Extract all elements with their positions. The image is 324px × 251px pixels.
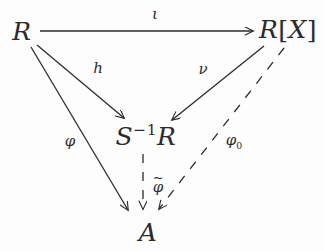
edge-label-nu-text: ν [198, 60, 207, 78]
localization-ring-R: R [157, 122, 176, 151]
edge-label-h: h [93, 61, 103, 76]
edge-label-h-text: h [93, 59, 103, 77]
node-R-poly-base: R [259, 15, 278, 44]
edge-label-phi-zero-subscript: 0 [236, 140, 242, 151]
edge-label-phi-tilde: ~φ [153, 180, 164, 195]
node-variable-X: X [289, 15, 307, 44]
localization-S: S [116, 122, 134, 151]
phi-tilde-group: ~φ [153, 180, 164, 195]
arrow-phi [31, 47, 128, 210]
node-A: A [139, 220, 158, 245]
bracket-close: ] [307, 15, 317, 44]
edge-label-iota-text: ι [152, 5, 158, 23]
edge-label-phi-text: φ [65, 132, 76, 150]
arrow-nu [172, 46, 264, 120]
edge-label-phi-zero: φ0 [226, 133, 242, 150]
node-R-label: R [12, 17, 31, 46]
node-R: R [12, 19, 31, 44]
arrow-h [37, 45, 124, 118]
node-S-inverse-R: S−1R [116, 123, 177, 148]
edge-label-nu: ν [198, 62, 207, 77]
tilde-accent: ~ [153, 172, 164, 185]
bracket-open: [ [278, 15, 288, 44]
commutative-diagram: R[X] : iota (solid horizontal) --> S^-1 … [0, 0, 324, 251]
localization-exponent: −1 [133, 121, 157, 139]
arrow-phi-zero [159, 48, 284, 209]
node-R-poly-X: R[X] [259, 17, 317, 42]
edge-label-phi: φ [65, 134, 76, 149]
node-A-label: A [139, 218, 158, 247]
edge-label-phi-zero-base: φ [226, 131, 237, 149]
edge-label-iota: ι [152, 7, 158, 22]
